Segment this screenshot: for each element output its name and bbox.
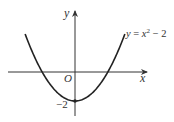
y-axis-label: y <box>63 6 70 20</box>
y-intercept-label: −2 <box>56 98 68 110</box>
curve-equation-label: y = x2 − 2 <box>125 27 166 39</box>
vertex-point <box>73 99 77 103</box>
curve-label-eq: = <box>131 28 142 39</box>
origin-label: O <box>64 72 72 84</box>
curve-label-tail: − 2 <box>150 28 166 39</box>
x-axis-label: x <box>139 71 146 85</box>
parabola-graph: y x O −2 y = x2 − 2 <box>0 0 174 122</box>
